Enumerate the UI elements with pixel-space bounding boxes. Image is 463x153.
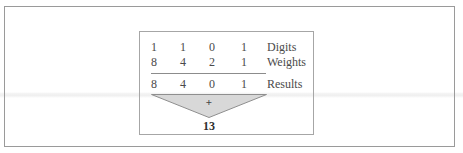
weights-row: 8 4 2 1 Weights (140, 55, 315, 70)
results-row-label: Results (267, 77, 302, 92)
digits-row-label: Digits (267, 40, 296, 55)
weights-cell-3: 1 (235, 55, 253, 70)
weights-cell-2: 2 (203, 55, 221, 70)
adder-operator-label: + (151, 97, 267, 108)
adder-triangle-icon: + (151, 94, 267, 118)
results-cell-0: 8 (145, 77, 163, 92)
digits-cell-3: 1 (235, 40, 253, 55)
digits-cell-0: 1 (145, 40, 163, 55)
results-cell-1: 4 (174, 77, 192, 92)
sum-rule-divider (151, 73, 266, 74)
results-cell-3: 1 (235, 77, 253, 92)
figure-root: 1 1 0 1 Digits 8 4 2 1 Weights 8 4 0 1 R… (0, 0, 463, 153)
weights-cell-1: 4 (174, 55, 192, 70)
digits-cell-2: 0 (203, 40, 221, 55)
weights-row-label: Weights (267, 55, 306, 70)
bcd-weight-diagram: 1 1 0 1 Digits 8 4 2 1 Weights 8 4 0 1 R… (139, 31, 314, 135)
digits-cell-1: 1 (174, 40, 192, 55)
digits-row: 1 1 0 1 Digits (140, 40, 315, 55)
results-cell-2: 0 (203, 77, 221, 92)
weights-cell-0: 8 (145, 55, 163, 70)
results-row: 8 4 0 1 Results (140, 77, 315, 92)
total-value: 13 (151, 119, 267, 134)
digit-weight-rows: 1 1 0 1 Digits 8 4 2 1 Weights (140, 40, 315, 70)
